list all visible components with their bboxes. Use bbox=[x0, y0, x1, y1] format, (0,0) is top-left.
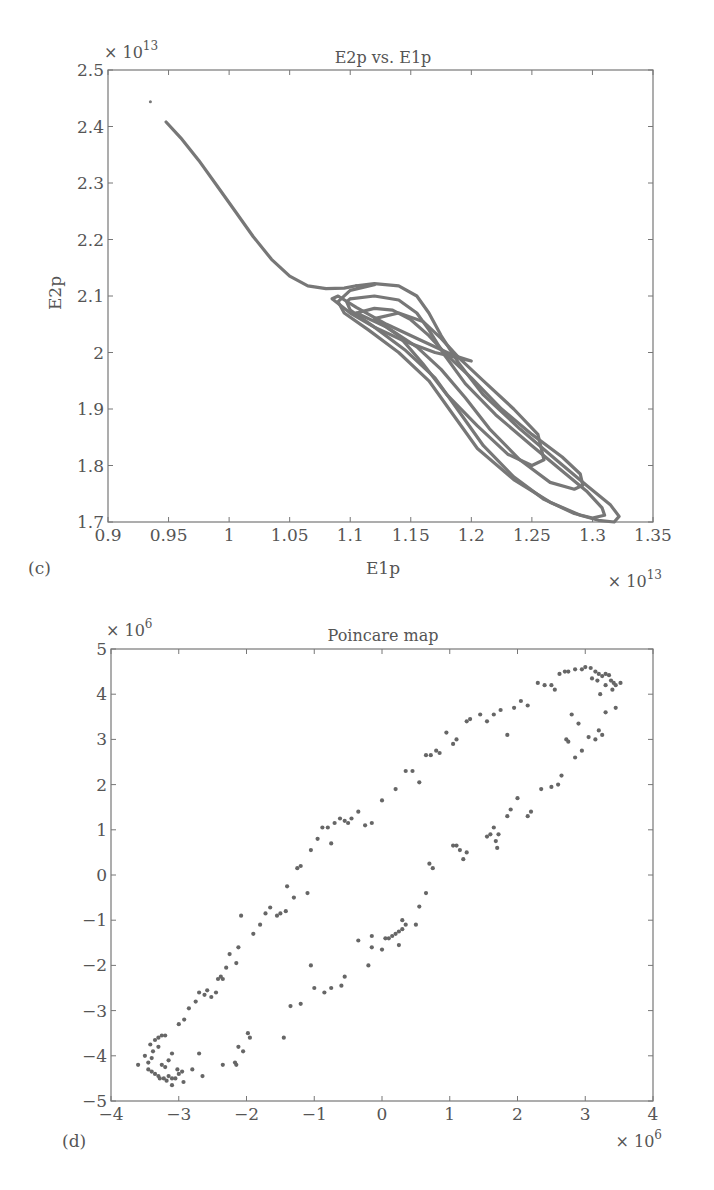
scatter-point bbox=[197, 1051, 201, 1055]
scatter-point bbox=[228, 952, 232, 956]
scatter-point bbox=[509, 807, 513, 811]
scatter-point bbox=[505, 733, 509, 737]
x-multiplier-c: × 1013 bbox=[608, 568, 662, 591]
scatter-point bbox=[224, 966, 228, 970]
scatter-point bbox=[175, 1067, 179, 1071]
scatter-point bbox=[543, 683, 547, 687]
y-multiplier-d: × 106 bbox=[106, 617, 153, 640]
scatter-point bbox=[167, 1058, 171, 1062]
plot-area-c bbox=[149, 100, 619, 522]
scatter-point bbox=[284, 909, 288, 913]
scatter-point bbox=[604, 710, 608, 714]
x-tick-label: 1.25 bbox=[513, 525, 551, 545]
scatter-point bbox=[604, 683, 608, 687]
scatter-point bbox=[488, 832, 492, 836]
scatter-point bbox=[173, 1076, 177, 1080]
scatter-point bbox=[282, 1036, 286, 1040]
scatter-point bbox=[461, 857, 465, 861]
scatter-point bbox=[285, 884, 289, 888]
y-tick-label: 1.9 bbox=[77, 399, 104, 419]
scatter-point bbox=[424, 891, 428, 895]
scatter-point bbox=[370, 934, 374, 938]
scatter-point bbox=[305, 891, 309, 895]
scatter-point bbox=[424, 753, 428, 757]
scatter-point bbox=[593, 737, 597, 741]
y-tick-label: 3 bbox=[96, 729, 107, 749]
scatter-point bbox=[400, 927, 404, 931]
scatter-point bbox=[614, 683, 618, 687]
y-tick-label: 2.2 bbox=[77, 230, 104, 250]
scatter-point bbox=[329, 986, 333, 990]
scatter-point bbox=[170, 1051, 174, 1055]
scatter-point bbox=[505, 814, 509, 818]
scatter-point bbox=[444, 731, 448, 735]
scatter-point bbox=[598, 692, 602, 696]
scatter-point bbox=[163, 1065, 167, 1069]
scatter-point bbox=[343, 975, 347, 979]
x-tick-label: 1.2 bbox=[458, 525, 485, 545]
scatter-point bbox=[451, 844, 455, 848]
y-tick-label: 2 bbox=[96, 775, 107, 795]
scatter-point bbox=[499, 708, 503, 712]
scatter-point bbox=[190, 1067, 194, 1071]
scatter-point bbox=[146, 1061, 150, 1065]
x-tick-label: 3 bbox=[580, 1104, 591, 1124]
axes-c: 0.90.9511.051.11.151.21.251.31.351.71.81… bbox=[77, 60, 672, 545]
scatter-point bbox=[573, 667, 577, 671]
y-axis-label-c: E2p bbox=[45, 276, 65, 310]
scatter-point bbox=[492, 825, 496, 829]
panel-label-d: (d) bbox=[62, 1131, 86, 1151]
scatter-point bbox=[404, 769, 408, 773]
scatter-point bbox=[485, 719, 489, 723]
scatter-point bbox=[589, 666, 593, 670]
scatter-point bbox=[143, 1054, 147, 1058]
scatter-point bbox=[549, 683, 553, 687]
scatter-point bbox=[458, 848, 462, 852]
scatter-point bbox=[338, 816, 342, 820]
scatter-point bbox=[607, 673, 611, 677]
scatter-point bbox=[288, 1004, 292, 1008]
scatter-point bbox=[397, 943, 401, 947]
y-tick-label: −4 bbox=[82, 1046, 107, 1066]
scatter-point bbox=[221, 977, 225, 981]
scatter-point bbox=[160, 1063, 164, 1067]
plot-frame bbox=[111, 649, 653, 1101]
scatter-point bbox=[595, 679, 599, 683]
scatter-point bbox=[549, 785, 553, 789]
panel-label-c: (c) bbox=[28, 558, 51, 578]
curve-loop-mid bbox=[347, 296, 605, 518]
scatter-point bbox=[494, 839, 498, 843]
axes-d: −4−3−2−101234−5−4−3−2−1012345 bbox=[82, 639, 658, 1124]
x-tick-label: 1 bbox=[224, 525, 235, 545]
y-tick-label: −3 bbox=[82, 1001, 107, 1021]
scatter-point bbox=[434, 749, 438, 753]
scatter-point bbox=[205, 988, 209, 992]
scatter-point bbox=[349, 816, 353, 820]
scatter-point bbox=[593, 670, 597, 674]
scatter-point bbox=[526, 703, 530, 707]
scatter-point bbox=[165, 1079, 169, 1083]
scatter-point bbox=[380, 798, 384, 802]
scatter-point bbox=[234, 961, 238, 965]
scatter-point bbox=[519, 699, 523, 703]
y-tick-label: 2.3 bbox=[77, 173, 104, 193]
x-tick-label: 4 bbox=[648, 1104, 659, 1124]
scatter-point bbox=[182, 1018, 186, 1022]
scatter-point bbox=[329, 841, 333, 845]
scatter-point bbox=[566, 670, 570, 674]
scatter-point bbox=[356, 810, 360, 814]
scatter-point bbox=[590, 676, 594, 680]
scatter-point bbox=[417, 780, 421, 784]
scatter-point bbox=[400, 918, 404, 922]
scatter-point bbox=[234, 1063, 238, 1067]
y-tick-label: 2.4 bbox=[77, 117, 104, 137]
scatter-point bbox=[618, 681, 622, 685]
scatter-point bbox=[597, 728, 601, 732]
scatter-point bbox=[200, 1074, 204, 1078]
scatter-point bbox=[181, 1080, 185, 1084]
x-tick-label: 0.95 bbox=[150, 525, 188, 545]
scatter-point bbox=[583, 665, 587, 669]
scatter-point bbox=[197, 990, 201, 994]
x-tick-label: 1 bbox=[444, 1104, 455, 1124]
scatter-point bbox=[263, 911, 267, 915]
